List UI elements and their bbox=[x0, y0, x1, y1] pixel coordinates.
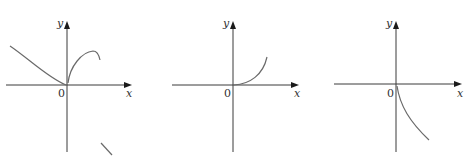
graph-panel-2: y 0 x bbox=[172, 17, 301, 152]
origin-label: 0 bbox=[58, 87, 65, 100]
figure-three-graphs: y 0 x y 0 x y 0 x bbox=[0, 0, 466, 164]
x-axis-label: x bbox=[294, 87, 301, 100]
y-axis-label: y bbox=[385, 17, 393, 30]
curve bbox=[234, 57, 267, 85]
graph-panel-3: y 0 x bbox=[334, 17, 464, 152]
y-axis-arrow-icon bbox=[230, 21, 236, 29]
y-axis-label: y bbox=[222, 17, 230, 30]
x-axis-label: x bbox=[126, 87, 133, 100]
curve-right-branch bbox=[68, 51, 100, 83]
x-axis-label: x bbox=[457, 87, 464, 100]
origin-label: 0 bbox=[387, 87, 394, 100]
y-axis-arrow-icon bbox=[64, 21, 70, 29]
curve-left-branch bbox=[10, 46, 66, 85]
y-axis-label: y bbox=[56, 17, 64, 30]
curve-lower-segment bbox=[101, 143, 112, 155]
curve bbox=[397, 86, 429, 140]
graph-panel-1: y 0 x bbox=[6, 17, 133, 155]
origin-label: 0 bbox=[224, 87, 231, 100]
y-axis-arrow-icon bbox=[393, 21, 399, 29]
